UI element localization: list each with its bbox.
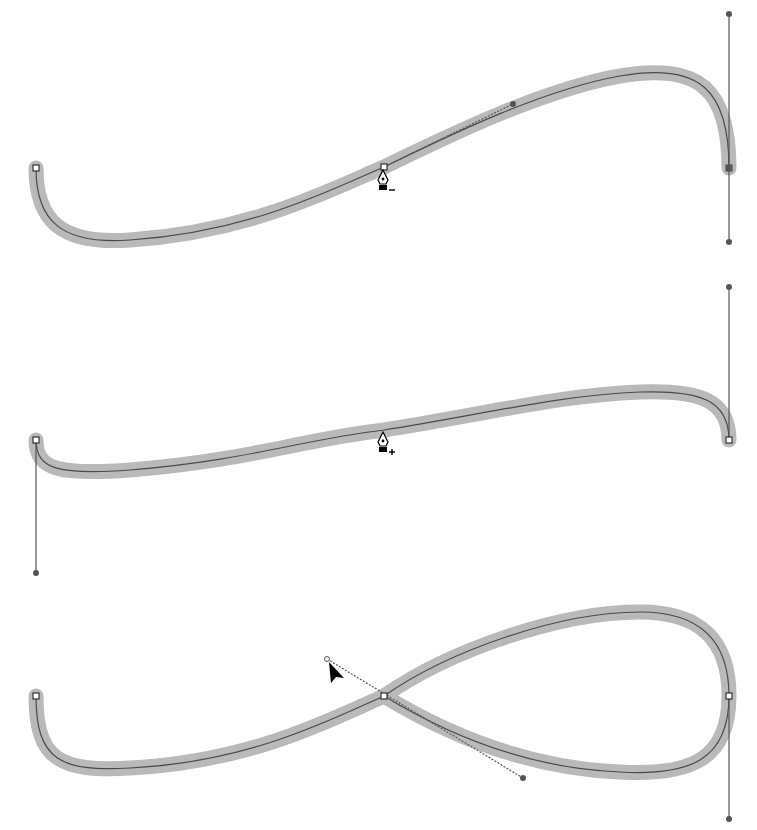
- direction-handle[interactable]: [510, 101, 516, 107]
- anchor-point-selected[interactable]: [726, 165, 732, 171]
- anchor-point[interactable]: [33, 165, 39, 171]
- anchor-point[interactable]: [381, 693, 387, 699]
- anchor-point[interactable]: [33, 693, 39, 699]
- anchor-point[interactable]: [726, 693, 732, 699]
- anchor-point[interactable]: [33, 437, 39, 443]
- figure-convert-point: [33, 612, 732, 822]
- direction-handle[interactable]: [33, 570, 39, 576]
- figure-delete-anchor: [33, 11, 732, 245]
- bezier-path[interactable]: [36, 73, 729, 241]
- direction-handle[interactable]: [726, 284, 732, 290]
- stroke-highlight: [36, 73, 729, 241]
- direction-handle[interactable]: [726, 11, 732, 17]
- illustration-canvas: [0, 0, 757, 830]
- direction-handle[interactable]: [726, 239, 732, 245]
- direction-handle[interactable]: [520, 775, 526, 781]
- anchor-point[interactable]: [726, 437, 732, 443]
- direction-handle[interactable]: [726, 816, 732, 822]
- anchor-point[interactable]: [381, 164, 387, 170]
- direction-handle[interactable]: [325, 657, 330, 662]
- figure-add-anchor: [33, 284, 732, 576]
